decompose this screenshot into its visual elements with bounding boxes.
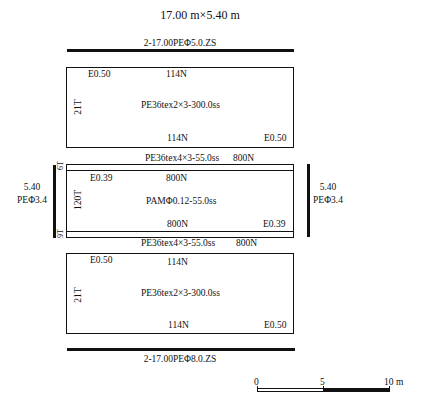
lower-panel-material: PE36tex2×3-300.0ss — [141, 288, 220, 298]
upper-panel-side-label: 21T — [68, 102, 88, 116]
upper-panel-bottom-count: 114N — [167, 133, 188, 143]
lower-panel-side-text: 21T — [73, 287, 83, 302]
lower-strip-label: PE36tex4×3-55.0ss — [141, 238, 215, 248]
scale-bar-white-segment — [257, 388, 324, 392]
head-rope-label: 2-17.00PEΦ5.0.ZS — [67, 38, 293, 48]
lower-strip-count: 800N — [236, 238, 257, 248]
upper-panel-bottom-right-label: E0.50 — [264, 133, 286, 143]
right-rope-length: 5.40 — [310, 182, 346, 192]
middle-panel-bottom-count: 800N — [167, 219, 188, 229]
upper-panel-side-text: 21T — [73, 99, 83, 114]
upper-strip-label: PE36tex4×3-55.0ss — [145, 153, 219, 163]
scale-bar-black-segment — [323, 388, 390, 392]
lower-panel-bottom-right-label: E0.50 — [264, 320, 286, 330]
left-side-rope — [53, 165, 56, 238]
left-rope-length: 5.40 — [14, 182, 50, 192]
upper-strip-side-text: 6T — [55, 161, 64, 170]
upper-panel-material: PE36tex2×3-300.0ss — [141, 100, 220, 110]
diagram-title: 17.00 m×5.40 m — [0, 8, 400, 23]
lower-panel-bottom-count: 114N — [168, 320, 189, 330]
left-rope-spec: PEΦ3.4 — [14, 195, 50, 205]
lower-strip — [66, 231, 294, 238]
right-rope-spec: PEΦ3.4 — [310, 195, 346, 205]
upper-panel-top-count: 114N — [166, 69, 187, 79]
lower-panel-top-count: 114N — [167, 257, 188, 267]
foot-rope-line — [67, 348, 295, 351]
lower-strip-side: 9T — [55, 229, 65, 241]
foot-rope-label: 2-17.00PEΦ8.0.ZS — [67, 354, 293, 364]
middle-panel-material: PAMΦ0.12-55.0ss — [146, 196, 216, 206]
middle-panel-bottom-right-label: E0.39 — [263, 219, 285, 229]
upper-strip-side: 6T — [55, 161, 65, 173]
upper-panel-top-left-label: E0.50 — [88, 69, 110, 79]
head-rope-line — [67, 49, 294, 52]
lower-strip-side-text: 9T — [55, 229, 64, 238]
middle-panel-top-left-label: E0.39 — [90, 173, 112, 183]
middle-panel-side-text: 120T — [73, 190, 83, 210]
lower-panel-side-label: 21T — [68, 290, 88, 304]
lower-panel-top-left-label: E0.50 — [90, 255, 112, 265]
scale-tick-10: 10 m — [384, 377, 403, 387]
upper-strip-count: 800N — [233, 153, 254, 163]
middle-panel-side-label: 120T — [66, 195, 90, 209]
middle-panel-top-count: 800N — [166, 173, 187, 183]
